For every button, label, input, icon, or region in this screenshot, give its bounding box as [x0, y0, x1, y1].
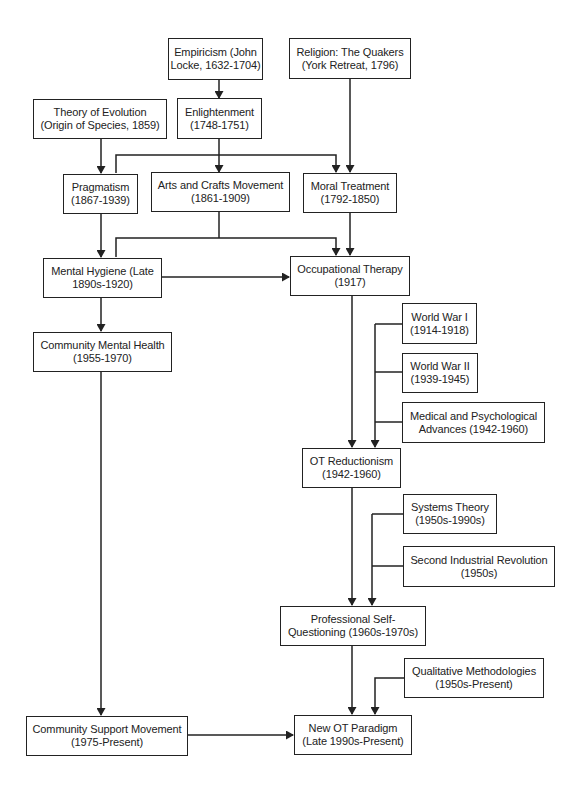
node-religion: Religion: The Quakers (York Retreat, 179…: [289, 38, 411, 79]
node-medical-psychological: Medical and Psychological Advances (1942…: [402, 402, 545, 443]
edge-qualitative-new-ot: [375, 678, 404, 714]
node-qualitative-methodologies: Qualitative Methodologies (1950s-Present…: [404, 658, 544, 698]
node-community-mental-health: Community Mental Health (1955-1970): [33, 332, 172, 372]
node-community-support-movement: Community Support Movement (1975-Present…: [26, 716, 188, 756]
node-systems-theory: Systems Theory (1950s-1990s): [403, 494, 497, 534]
node-new-ot-paradigm: New OT Paradigm (Late 1990s-Present): [294, 715, 412, 755]
node-empiricism: Empiricism (John Locke, 1632-1704): [168, 38, 263, 80]
node-mental-hygiene: Mental Hygiene (Late 1890s-1920): [43, 258, 162, 298]
node-professional-self-questioning: Professional Self- Questioning (1960s-19…: [280, 606, 426, 646]
node-world-war-1: World War I (1914-1918): [402, 303, 477, 344]
node-theory-of-evolution: Theory of Evolution (Origin of Species, …: [33, 99, 167, 139]
node-second-industrial-revolution: Second Industrial Revolution (1950s): [403, 546, 555, 587]
node-world-war-2: World War II (1939-1945): [402, 353, 478, 393]
flowchart-canvas: Empiricism (John Locke, 1632-1704) Relig…: [0, 0, 580, 788]
node-moral-treatment: Moral Treatment (1792-1850): [303, 173, 397, 213]
node-ot-reductionism: OT Reductionism (1942-1960): [302, 448, 401, 488]
node-arts-and-crafts: Arts and Crafts Movement (1861-1909): [151, 172, 290, 212]
node-occupational-therapy: Occupational Therapy (1917): [290, 256, 410, 296]
node-enlightenment: Enlightenment (1748-1751): [177, 98, 262, 139]
node-pragmatism: Pragmatism (1867-1939): [63, 174, 138, 214]
